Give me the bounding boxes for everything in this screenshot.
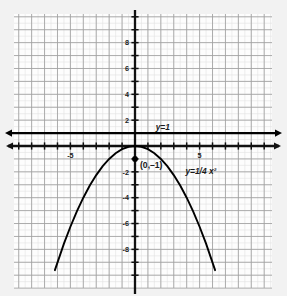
plot-area <box>14 14 272 288</box>
plot-background <box>14 14 272 288</box>
point-marker <box>132 156 138 162</box>
y-axis-tick-label: 2 <box>125 116 129 125</box>
y-axis-tick-label: 8 <box>125 38 129 47</box>
curve-label: y=1/4 x² <box>184 166 216 176</box>
point-label: (0,–1) <box>140 160 163 170</box>
marked-point <box>132 156 138 162</box>
graph-figure: -558642-2-4-6-8 (0,–1)y=1y=1/4 x² <box>0 0 287 296</box>
y-axis-tick-label: 6 <box>125 64 129 73</box>
y-axis-tick-label: -6 <box>123 219 129 228</box>
x-axis-tick-label: 5 <box>198 151 202 160</box>
line-label: y=1 <box>155 122 171 132</box>
y-axis-tick-label: -4 <box>123 193 129 202</box>
coordinate-plane-svg: -558642-2-4-6-8 (0,–1)y=1y=1/4 x² <box>0 0 287 296</box>
y-axis-tick-label: 4 <box>125 90 129 99</box>
y-axis-tick-label: -2 <box>123 168 129 177</box>
x-axis-tick-label: -5 <box>67 151 73 160</box>
y-axis-tick-label: -8 <box>123 245 129 254</box>
